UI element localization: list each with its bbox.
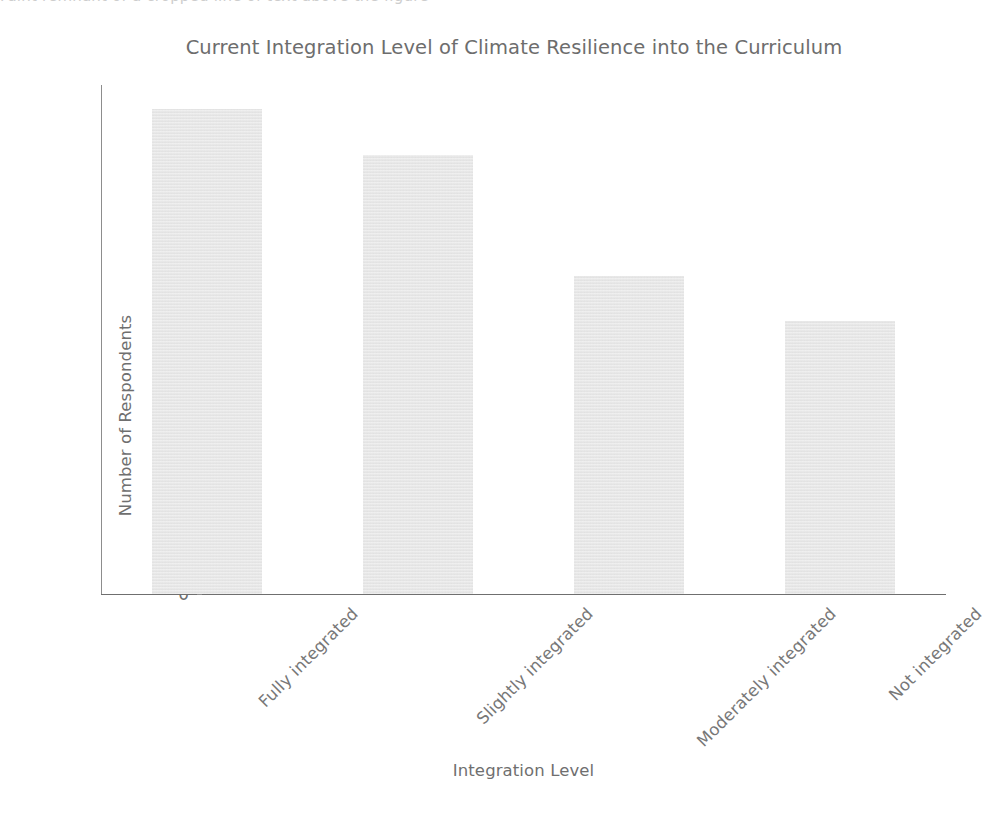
plot-area: 051015202530 Number of Respondents <box>101 85 946 594</box>
bar <box>363 155 473 594</box>
x-axis-spine <box>101 594 946 595</box>
x-axis-title: Integration Level <box>101 761 946 780</box>
x-axis-tick-label: Slightly integrated <box>473 604 597 728</box>
cropped-text-remnant: Faint remnant of a cropped line of text … <box>0 0 982 8</box>
bar <box>152 109 262 594</box>
x-axis-tick-label: Not integrated <box>885 604 982 704</box>
chart-figure: Faint remnant of a cropped line of text … <box>0 0 982 819</box>
y-axis-title: Number of Respondents <box>116 116 135 716</box>
chart-title: Current Integration Level of Climate Res… <box>0 36 982 59</box>
cropped-text-remnant-line: Faint remnant of a cropped line of text … <box>0 0 429 5</box>
bar <box>574 276 684 594</box>
x-axis-tick-label: Moderately integrated <box>693 604 840 751</box>
x-axis-tick-label: Fully integrated <box>254 604 361 711</box>
bar <box>785 321 895 594</box>
